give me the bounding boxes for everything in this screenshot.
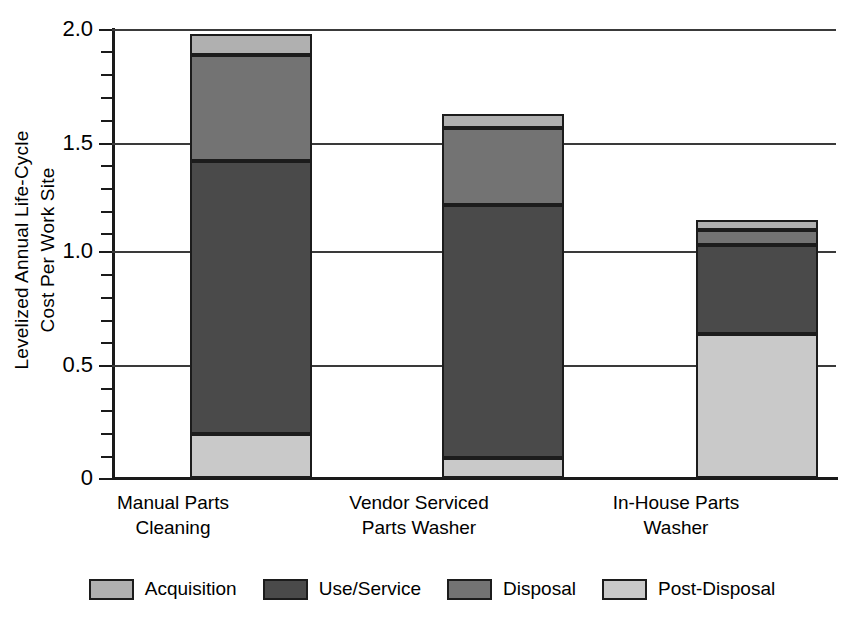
y-tick-minor-0-9 bbox=[101, 274, 112, 276]
legend-item-post-disposal[interactable]: Post-Disposal bbox=[602, 578, 775, 600]
bar-segment-use-service[interactable] bbox=[190, 161, 312, 434]
y-tick-minor-0-7 bbox=[101, 320, 112, 322]
y-tick-minor-0-6 bbox=[101, 342, 112, 344]
legend-label-acquisition: Acquisition bbox=[145, 578, 237, 600]
legend-swatch-disposal bbox=[447, 579, 492, 600]
x-tick-label-0-line-2: Cleaning bbox=[43, 515, 303, 540]
legend-item-acquisition[interactable]: Acquisition bbox=[89, 578, 237, 600]
y-tick-minor-1-4 bbox=[101, 165, 112, 167]
y-tick-1-5 bbox=[99, 143, 112, 145]
legend-label-use-service: Use/Service bbox=[319, 578, 421, 600]
y-tick-minor-1-3 bbox=[101, 188, 112, 190]
y-tick-label-0: 0 bbox=[81, 465, 93, 491]
y-tick-minor-1-1 bbox=[101, 233, 112, 235]
bar-segment-disposal[interactable] bbox=[190, 55, 312, 162]
bar-in-house-parts-washer[interactable] bbox=[696, 220, 818, 478]
y-tick-label-1-0: 1.0 bbox=[62, 238, 93, 264]
y-tick-0-5 bbox=[99, 365, 112, 367]
y-tick-0 bbox=[99, 478, 112, 480]
y-tick-label-0-5: 0.5 bbox=[62, 352, 93, 378]
x-tick-label-0: Manual Parts Cleaning bbox=[43, 490, 303, 540]
y-tick-2-0 bbox=[99, 29, 112, 31]
legend-swatch-acquisition bbox=[89, 579, 134, 600]
plot-area: 2.0 1.5 1.0 0.5 0 bbox=[112, 29, 836, 478]
chart-legend: Acquisition Use/Service Disposal Post-Di… bbox=[0, 578, 864, 600]
bar-manual-parts-cleaning[interactable] bbox=[190, 34, 312, 479]
y-axis-title-line-2: Cost Per Work Site bbox=[35, 131, 61, 370]
x-tick-label-2-line-1: In-House Parts bbox=[546, 490, 806, 515]
bar-segment-post-disposal[interactable] bbox=[190, 434, 312, 478]
bar-segment-use-service[interactable] bbox=[442, 205, 564, 458]
legend-item-disposal[interactable]: Disposal bbox=[447, 578, 576, 600]
bar-segment-acquisition[interactable] bbox=[442, 114, 564, 127]
y-tick-minor-1-2 bbox=[101, 211, 112, 213]
y-tick-minor-0-2 bbox=[101, 433, 112, 435]
x-tick-label-2: In-House Parts Washer bbox=[546, 490, 806, 540]
legend-item-use-service[interactable]: Use/Service bbox=[263, 578, 421, 600]
gridline-2-0 bbox=[112, 29, 836, 31]
bar-segment-post-disposal[interactable] bbox=[696, 334, 818, 478]
bar-segment-disposal[interactable] bbox=[442, 128, 564, 205]
y-tick-minor-1-8 bbox=[101, 74, 112, 76]
x-tick-label-0-line-1: Manual Parts bbox=[43, 490, 303, 515]
y-tick-minor-1-6 bbox=[101, 120, 112, 122]
y-tick-minor-0-1 bbox=[101, 456, 112, 458]
x-tick-label-1-line-2: Parts Washer bbox=[289, 515, 549, 540]
bar-segment-acquisition[interactable] bbox=[190, 34, 312, 55]
y-tick-minor-1-9 bbox=[101, 51, 112, 53]
chart-figure: Levelized Annual Life-Cycle Cost Per Wor… bbox=[0, 0, 864, 632]
bar-segment-use-service[interactable] bbox=[696, 245, 818, 335]
legend-label-disposal: Disposal bbox=[503, 578, 576, 600]
y-tick-label-2-0: 2.0 bbox=[62, 16, 93, 42]
y-axis-title: Levelized Annual Life-Cycle Cost Per Wor… bbox=[0, 0, 70, 500]
bar-segment-acquisition[interactable] bbox=[696, 220, 818, 230]
y-tick-minor-0-3 bbox=[101, 410, 112, 412]
y-tick-1-0 bbox=[99, 251, 112, 253]
y-tick-minor-1-7 bbox=[101, 97, 112, 99]
legend-swatch-use-service bbox=[263, 579, 308, 600]
y-tick-minor-0-8 bbox=[101, 297, 112, 299]
legend-swatch-post-disposal bbox=[602, 579, 647, 600]
bar-vendor-serviced-parts-washer[interactable] bbox=[442, 114, 564, 478]
y-axis-title-line-1: Levelized Annual Life-Cycle bbox=[9, 131, 35, 370]
y-tick-minor-0-4 bbox=[101, 388, 112, 390]
legend-label-post-disposal: Post-Disposal bbox=[658, 578, 775, 600]
bar-segment-disposal[interactable] bbox=[696, 230, 818, 245]
x-tick-label-1: Vendor Serviced Parts Washer bbox=[289, 490, 549, 540]
bar-segment-post-disposal[interactable] bbox=[442, 458, 564, 478]
y-tick-label-1-5: 1.5 bbox=[62, 130, 93, 156]
x-tick-label-2-line-2: Washer bbox=[546, 515, 806, 540]
y-axis-line bbox=[112, 28, 115, 479]
x-tick-label-1-line-1: Vendor Serviced bbox=[289, 490, 549, 515]
